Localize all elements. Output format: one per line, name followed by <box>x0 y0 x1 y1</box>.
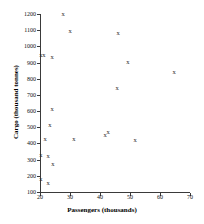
data-point-marker: x <box>116 30 119 37</box>
x-tick-label: 50 <box>120 194 140 200</box>
data-point-marker: x <box>68 28 71 35</box>
y-tick-label: 1000 <box>24 43 36 49</box>
data-point-marker: x <box>106 129 109 136</box>
y-axis-line <box>40 14 41 192</box>
y-tick-label: 800 <box>27 76 36 82</box>
data-point-marker: x <box>51 161 54 168</box>
data-point-marker: x <box>133 136 136 143</box>
data-point-marker: x <box>126 58 129 65</box>
data-point-marker: x <box>48 122 51 129</box>
data-point-marker: x <box>42 52 45 59</box>
y-tick-label: 300 <box>27 157 36 163</box>
x-tick-label: 40 <box>90 194 110 200</box>
y-tick-label: 900 <box>27 60 36 66</box>
y-tick <box>37 143 40 144</box>
y-tick-label: 1200 <box>24 11 36 17</box>
x-tick-label: 30 <box>60 194 80 200</box>
scatter-chart-figure: xxxxxxxxxxxxxxxxxxxxx 100200300400500600… <box>0 0 204 224</box>
x-tick-label: 60 <box>150 194 170 200</box>
data-point-marker: x <box>39 152 42 159</box>
y-axis-title: Cargo (thousand tonnes) <box>12 22 20 182</box>
y-tick-label: 400 <box>27 140 36 146</box>
y-tick <box>37 63 40 64</box>
data-point-marker: x <box>39 176 42 183</box>
data-point-marker: x <box>172 69 175 76</box>
y-tick <box>37 160 40 161</box>
x-tick-label: 20 <box>30 194 50 200</box>
y-tick <box>37 14 40 15</box>
y-tick-label: 1100 <box>24 27 36 33</box>
y-tick-label: 500 <box>27 124 36 130</box>
data-point-marker: x <box>50 54 53 61</box>
data-point-marker: x <box>43 136 46 143</box>
x-axis-title: Passengers (thousands) <box>0 206 204 214</box>
plot-area: xxxxxxxxxxxxxxxxxxxxx <box>40 14 190 192</box>
y-tick <box>37 127 40 128</box>
y-tick-label: 700 <box>27 92 36 98</box>
data-point-marker: x <box>46 153 49 160</box>
x-axis-line <box>40 192 190 193</box>
y-tick-label: 600 <box>27 108 36 114</box>
y-tick-label: 200 <box>27 173 36 179</box>
y-tick <box>37 95 40 96</box>
data-point-marker: x <box>50 106 53 113</box>
x-tick-label: 70 <box>180 194 200 200</box>
y-tick <box>37 79 40 80</box>
data-point-marker: x <box>61 11 64 18</box>
x-axis-tick-labels: 203040506070 <box>40 194 190 204</box>
data-point-marker: x <box>115 84 118 91</box>
data-point-marker: x <box>72 136 75 143</box>
y-tick <box>37 46 40 47</box>
y-tick <box>37 111 40 112</box>
data-point-marker: x <box>46 180 49 187</box>
y-tick <box>37 30 40 31</box>
